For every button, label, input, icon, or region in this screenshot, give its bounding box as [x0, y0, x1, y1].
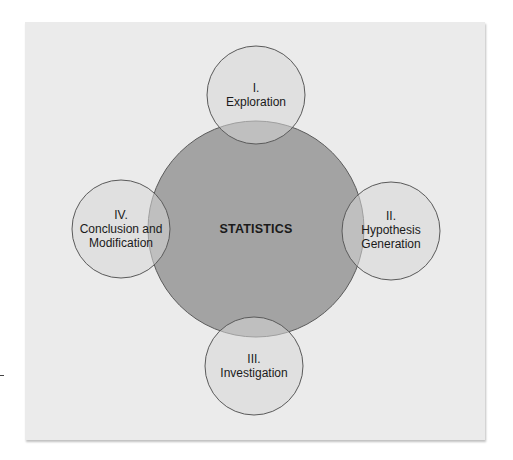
stage-label-exploration: I. Exploration	[226, 81, 286, 109]
stage-title: Investigation	[220, 366, 287, 380]
stage-label-conclusion: IV. Conclusion and Modification	[80, 208, 163, 250]
stage-numeral: I.	[226, 81, 286, 95]
stage-title-line2: Generation	[361, 237, 420, 251]
stage-title-line2: Modification	[80, 236, 163, 250]
stage-title: Hypothesis	[361, 223, 420, 237]
stage-numeral: III.	[220, 352, 287, 366]
stage-numeral: IV.	[80, 208, 163, 222]
center-label: STATISTICS	[219, 222, 292, 236]
stage-title: Exploration	[226, 95, 286, 109]
stage-label-hypothesis: II. Hypothesis Generation	[361, 209, 420, 251]
stage-label-investigation: III. Investigation	[220, 352, 287, 380]
stage-numeral: II.	[361, 209, 420, 223]
stage-title: Conclusion and	[80, 222, 163, 236]
